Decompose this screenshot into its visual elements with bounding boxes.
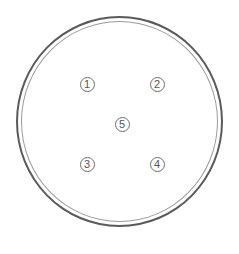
marker-3: 3	[80, 157, 95, 172]
marker-4: 4	[150, 157, 165, 172]
marker-label: 2	[154, 79, 160, 90]
marker-label: 4	[154, 159, 160, 170]
marker-label: 3	[84, 159, 90, 170]
marker-label: 5	[119, 119, 125, 130]
petri-dish-diagram: 1 2 5 3 4	[0, 0, 239, 254]
marker-label: 1	[84, 79, 90, 90]
marker-5: 5	[115, 117, 130, 132]
marker-2: 2	[150, 77, 165, 92]
marker-1: 1	[80, 77, 95, 92]
